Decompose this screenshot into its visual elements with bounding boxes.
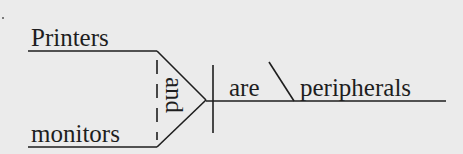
stray-mark bbox=[2, 17, 4, 19]
subject-word-printers: Printers bbox=[31, 24, 109, 51]
verb-word: are bbox=[229, 74, 260, 101]
conjunction-word: and bbox=[161, 77, 188, 114]
complement-slant-line bbox=[269, 62, 294, 101]
complement-word: peripherals bbox=[300, 74, 411, 101]
sentence-diagram: Printers monitors and are peripherals bbox=[0, 0, 463, 154]
subject-word-monitors: monitors bbox=[31, 120, 120, 147]
